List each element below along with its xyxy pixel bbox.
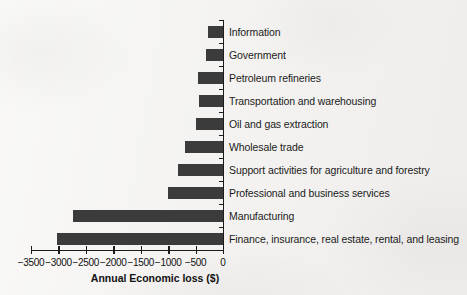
bar-category-label: Petroleum refineries (229, 70, 321, 86)
bar (208, 26, 223, 38)
x-axis-tick-label: 0 (203, 257, 243, 268)
bar (73, 210, 223, 222)
bar (206, 49, 223, 61)
bar-category-label: Information (229, 24, 280, 40)
bar-row: Support activities for agriculture and f… (0, 158, 467, 182)
bar (178, 164, 223, 176)
bar-row: Information (0, 20, 467, 44)
bar (185, 141, 223, 153)
x-axis-tick (31, 246, 32, 254)
bar-row: Wholesale trade (0, 135, 467, 159)
x-axis-tick (86, 246, 87, 254)
bar-category-label: Finance, insurance, real estate, rental,… (229, 231, 459, 247)
bar-row: Finance, insurance, real estate, rental,… (0, 227, 467, 251)
bar (196, 118, 223, 130)
bar-row: Oil and gas extraction (0, 112, 467, 136)
x-axis-tick (141, 246, 142, 254)
bar-category-label: Wholesale trade (229, 139, 303, 155)
x-axis-title: Annual Economic loss ($) (55, 272, 255, 284)
bar-row: Transportation and warehousing (0, 89, 467, 113)
bar-row: Manufacturing (0, 204, 467, 228)
bar-category-label: Oil and gas extraction (229, 116, 328, 132)
bar-row: Professional and business services (0, 181, 467, 205)
x-axis-tick (58, 246, 59, 254)
bar-row: Petroleum refineries (0, 66, 467, 90)
bar-category-label: Manufacturing (229, 208, 294, 224)
x-axis-tick (196, 246, 197, 254)
bar (198, 72, 223, 84)
bar (199, 95, 223, 107)
x-axis-tick (113, 246, 114, 254)
bar-category-label: Government (229, 47, 286, 63)
bar-category-label: Professional and business services (229, 185, 390, 201)
economic-loss-bar-chart: InformationGovernmentPetroleum refinerie… (0, 0, 467, 295)
bar (168, 187, 223, 199)
bar-category-label: Transportation and warehousing (229, 93, 376, 109)
bar-row: Government (0, 43, 467, 67)
x-axis-tick (168, 246, 169, 254)
bar (57, 233, 223, 245)
zero-value-axis-line (223, 20, 224, 250)
x-axis-tick (223, 246, 224, 254)
bar-category-label: Support activities for agriculture and f… (229, 162, 430, 178)
